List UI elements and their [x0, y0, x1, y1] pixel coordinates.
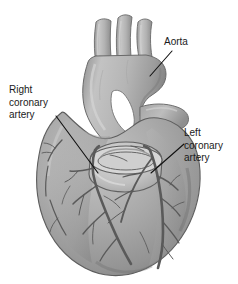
left-subclavian-artery-icon: [137, 19, 152, 58]
heart-body-group: [37, 112, 200, 275]
label-left-coronary-artery: Leftcoronaryartery: [184, 127, 223, 165]
label-right-coronary-line-3: artery: [9, 109, 35, 120]
heart-anatomy-figure: Aorta Rightcoronaryartery Leftcoronaryar…: [0, 0, 238, 284]
label-right-coronary-line-1: Right: [9, 84, 32, 95]
label-right-coronary-line-2: coronary: [9, 97, 48, 108]
label-aorta: Aorta: [164, 36, 188, 49]
great-vessels-group: [94, 15, 152, 58]
label-left-coronary-line-3: artery: [184, 152, 210, 163]
label-left-coronary-line-2: coronary: [184, 140, 223, 151]
label-right-coronary-artery: Rightcoronaryartery: [9, 84, 48, 122]
label-left-coronary-line-1: Left: [184, 127, 201, 138]
